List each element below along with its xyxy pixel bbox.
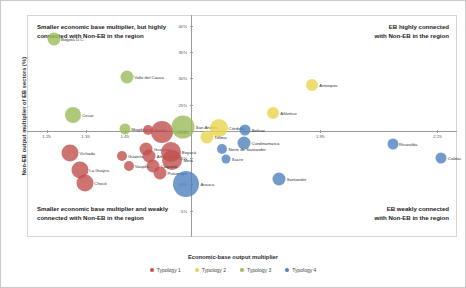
y-tick (190, 52, 193, 53)
y-tick-label: 35% (178, 50, 187, 55)
bubble-point[interactable] (240, 124, 251, 135)
bubble-point[interactable] (436, 152, 447, 163)
x-tick-label: 1.35 (81, 134, 90, 139)
legend-item[interactable]: Typology 4 (285, 267, 316, 273)
bubble-point[interactable] (172, 116, 195, 139)
bubble-point[interactable] (387, 138, 398, 149)
bubble-point[interactable] (173, 171, 199, 197)
x-tick-label: 1.25 (42, 134, 51, 139)
bubble-point[interactable] (200, 130, 213, 143)
x-tick (437, 130, 438, 133)
bubble-point[interactable] (222, 154, 231, 163)
legend-item[interactable]: Typology 3 (240, 267, 271, 273)
legend-label: Typology 2 (202, 267, 226, 273)
legend-dot-icon (195, 268, 199, 272)
x-tick (320, 130, 321, 133)
bubble-point[interactable] (62, 144, 79, 161)
bubble-point[interactable] (153, 166, 166, 179)
y-tick (190, 105, 193, 106)
x-tick-label: 1.95 (316, 134, 325, 139)
bubble-point[interactable] (162, 150, 182, 170)
x-tick (47, 130, 48, 133)
legend-label: Typology 1 (157, 267, 181, 273)
legend-item[interactable]: Typology 2 (195, 267, 226, 273)
bubble-chart: Non-EB output multiplier of EB sectors (… (0, 0, 466, 288)
quadrant-note-bottom-left: Smaller economic base multiplier and wea… (37, 205, 237, 223)
y-tick-label: 25% (178, 102, 187, 107)
y-tick-label: 30% (178, 76, 187, 81)
legend-label: Typology 4 (292, 267, 316, 273)
plot-area: 1.251.351.451.952.25 40%35%30%25%20%15%1… (27, 15, 457, 237)
legend-dot-icon (240, 268, 244, 272)
bubble-point[interactable] (151, 121, 173, 143)
legend-dot-icon (285, 268, 289, 272)
bubble-point[interactable] (217, 144, 227, 154)
bubble-point[interactable] (124, 161, 134, 171)
x-tick-label: 1.45 (120, 134, 129, 139)
y-tick (190, 158, 193, 159)
bubble-point[interactable] (120, 71, 133, 84)
bubble-point[interactable] (117, 151, 127, 161)
quadrant-note-top-right: EB highly connected with Non-EB in the r… (299, 23, 449, 41)
bubble-point[interactable] (306, 79, 318, 91)
quadrant-note-top-left: Smaller economic base multiplier, but hi… (37, 23, 217, 41)
y-tick (190, 78, 193, 79)
bubble-point[interactable] (273, 172, 286, 185)
legend-label: Typology 3 (247, 267, 271, 273)
bubble-point[interactable] (76, 175, 93, 192)
bubble-point[interactable] (267, 107, 279, 119)
bubble-point[interactable] (65, 107, 81, 123)
x-tick (86, 130, 87, 133)
bubble-point[interactable] (119, 123, 130, 134)
x-tick-label: 2.25 (433, 134, 442, 139)
x-axis-title: Economic-base output multiplier (1, 254, 465, 260)
quadrant-note-bottom-right: EB weakly connected with Non-EB in the r… (299, 205, 449, 223)
legend: Typology 1Typology 2Typology 3Typology 4 (1, 267, 465, 273)
legend-item[interactable]: Typology 1 (150, 267, 181, 273)
bubble-point[interactable] (47, 32, 60, 45)
bubble-point[interactable] (237, 136, 250, 149)
legend-dot-icon (150, 268, 154, 272)
